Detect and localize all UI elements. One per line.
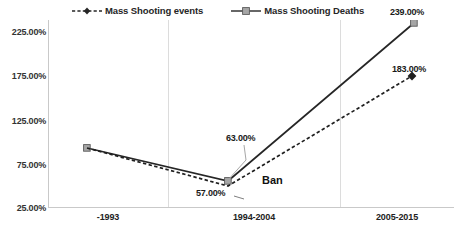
data-point-marker [225, 178, 232, 185]
series-mass-shooting-events [87, 72, 416, 186]
callout-leader-events [234, 196, 244, 199]
y-axis: 225.00% 175.00% 125.00% 75.00% 25.00% [0, 0, 46, 234]
legend-item-mass-shooting-deaths[interactable]: Mass Shooting Deaths [231, 6, 364, 16]
data-point-marker [411, 20, 418, 26]
y-axis-tick-225: 225.00% [0, 28, 46, 37]
x-axis: -1993 1994-2004 2005-2015 [48, 212, 454, 232]
annotation-ban: Ban [262, 174, 283, 186]
chart-container: Mass Shooting events Mass Shooting Death… [0, 0, 454, 234]
data-label-events-2005-2015: 183.00% [392, 64, 426, 74]
legend-label-mass-shooting-deaths: Mass Shooting Deaths [264, 6, 364, 16]
data-label-deaths-1994-2004: 63.00% [226, 133, 255, 143]
data-label-deaths-2005-2015: 239.00% [390, 7, 424, 17]
x-axis-tick-1993: -1993 [48, 212, 168, 222]
legend-label-mass-shooting-events: Mass Shooting events [105, 6, 203, 16]
y-axis-tick-125: 125.00% [0, 117, 46, 126]
solid-line-marker-icon [231, 6, 261, 16]
data-label-events-1994-2004: 57.00% [196, 188, 225, 198]
plot-area [48, 20, 454, 208]
callout-leader-deaths [228, 145, 246, 180]
x-axis-tick-2005-2015: 2005-2015 [340, 212, 454, 222]
y-axis-tick-175: 175.00% [0, 72, 46, 81]
dashed-line-marker-icon [72, 6, 102, 16]
y-axis-tick-25: 25.00% [0, 204, 46, 213]
legend-item-mass-shooting-events[interactable]: Mass Shooting events [72, 6, 203, 16]
chart-legend: Mass Shooting events Mass Shooting Death… [48, 2, 388, 20]
x-axis-tick-1994-2004: 1994-2004 [168, 212, 340, 222]
y-axis-tick-75: 75.00% [0, 161, 46, 170]
